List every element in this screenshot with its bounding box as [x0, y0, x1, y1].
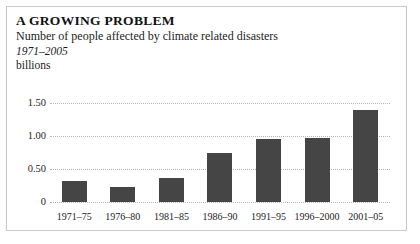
x-axis-tick-label: 1976–80 — [105, 211, 140, 222]
y-axis-tick-labels: 00.501.001.50 — [4, 103, 46, 202]
bar-slot — [245, 103, 293, 202]
y-axis-tick-label: 0 — [6, 197, 46, 207]
bar — [159, 178, 184, 202]
y-axis-tick-label: 0.50 — [6, 164, 46, 174]
x-axis-tick-label: 2001–05 — [348, 211, 383, 222]
x-axis-tick-label: 1981–85 — [154, 211, 189, 222]
bar-slot — [99, 103, 147, 202]
chart-title: A GROWING PROBLEM — [16, 13, 386, 28]
bar — [256, 139, 281, 202]
gridline — [50, 202, 390, 203]
x-tick-slot: 1996–2000 — [293, 206, 341, 224]
bar-series — [50, 103, 390, 202]
chart-figure: A GROWING PROBLEM Number of people affec… — [0, 0, 420, 244]
chart-subtitle: Number of people affected by climate rel… — [16, 29, 386, 44]
x-tick-slot: 2001–05 — [342, 206, 390, 224]
x-tick-slot: 1971–75 — [50, 206, 98, 224]
x-axis-tick-label: 1996–2000 — [295, 211, 340, 222]
y-axis-tick-label: 1.00 — [6, 131, 46, 141]
x-axis-tick-labels: 1971–751976–801981–851986–901991–951996–… — [50, 206, 390, 224]
bar — [305, 138, 330, 202]
x-axis-tick-label: 1991–95 — [251, 211, 286, 222]
bar — [110, 187, 135, 202]
bar-slot — [342, 103, 390, 202]
x-tick-slot: 1981–85 — [147, 206, 195, 224]
bar — [62, 181, 87, 202]
bar-slot — [196, 103, 244, 202]
x-tick-slot: 1991–95 — [245, 206, 293, 224]
x-tick-slot: 1976–80 — [99, 206, 147, 224]
plot-area — [50, 103, 390, 202]
bar-slot — [50, 103, 98, 202]
bar-slot — [147, 103, 195, 202]
x-axis-tick-label: 1986–90 — [202, 211, 237, 222]
chart-heading: A GROWING PROBLEM Number of people affec… — [16, 13, 386, 72]
bar-slot — [293, 103, 341, 202]
y-axis-tick-label: 1.50 — [6, 98, 46, 108]
x-axis-tick-label: 1971–75 — [57, 211, 92, 222]
x-tick-slot: 1986–90 — [196, 206, 244, 224]
chart-units-label: billions — [16, 58, 386, 72]
chart-period: 1971–2005 — [16, 44, 386, 58]
bar — [353, 110, 378, 202]
bar — [207, 153, 232, 202]
